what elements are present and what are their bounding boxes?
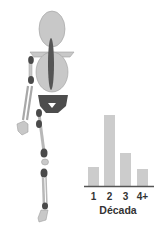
tick-label-1: 1	[91, 191, 97, 202]
hand	[17, 121, 28, 135]
x-axis-label: Década	[99, 204, 137, 216]
elbow-joint	[28, 76, 34, 84]
skeleton-figure	[17, 11, 74, 222]
histogram: 1 2 3 4+ Década	[84, 115, 154, 216]
fibula	[46, 177, 47, 207]
spine	[48, 38, 54, 90]
patella	[42, 159, 49, 165]
hip-joint	[36, 109, 42, 117]
foot	[38, 210, 48, 222]
knee-lower-joint	[41, 169, 48, 178]
bar-decade-2	[104, 115, 115, 186]
tibia	[43, 177, 44, 207]
bar-decade-1	[88, 167, 99, 186]
ankle-joint	[42, 203, 48, 210]
shoulder-joint	[28, 56, 34, 64]
thigh-joint	[36, 120, 42, 128]
knee-upper-joint	[41, 149, 48, 158]
femur	[39, 114, 44, 152]
tick-label-3: 3	[123, 191, 129, 202]
figure-canvas: 1 2 3 4+ Década	[0, 0, 165, 233]
bar-decade-3	[120, 153, 131, 186]
tick-label-2: 2	[107, 191, 113, 202]
tick-label-4plus: 4+	[137, 191, 149, 202]
bar-decade-4plus	[137, 169, 148, 186]
